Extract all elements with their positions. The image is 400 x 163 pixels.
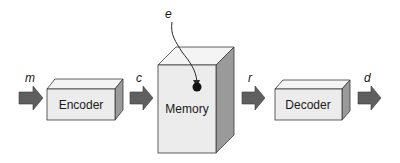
signal-label-r: r bbox=[248, 71, 253, 85]
input-arrow-m bbox=[19, 86, 43, 110]
arrow-r bbox=[242, 86, 265, 110]
signal-label-e: e bbox=[165, 7, 172, 21]
encoder-block: Encoder bbox=[47, 79, 123, 120]
decoder-top-face bbox=[275, 80, 350, 89]
memory-cell-dot bbox=[193, 83, 202, 92]
arrow-c bbox=[130, 86, 153, 110]
encoder-top-face bbox=[47, 79, 123, 89]
memory-block: Memory bbox=[158, 47, 234, 153]
encoder-memory-decoder-diagram: m Encoder c Memory e r Decoder d bbox=[0, 0, 400, 163]
encoder-label: Encoder bbox=[59, 98, 104, 112]
signal-label-c: c bbox=[136, 71, 142, 85]
memory-side-face bbox=[216, 47, 234, 153]
memory-label: Memory bbox=[165, 102, 208, 116]
signal-label-d: d bbox=[364, 71, 371, 85]
decoder-label: Decoder bbox=[285, 98, 330, 112]
signal-label-m: m bbox=[25, 71, 35, 85]
output-arrow-d bbox=[358, 86, 381, 110]
decoder-block: Decoder bbox=[275, 80, 350, 120]
